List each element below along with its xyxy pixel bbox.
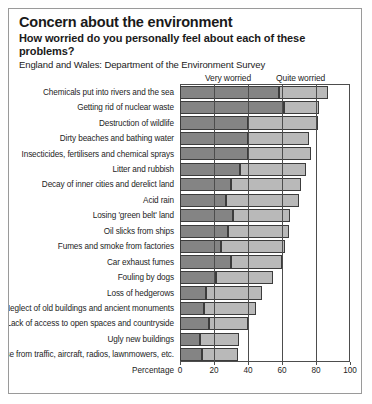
- bar-segment-very-worried: [180, 302, 204, 315]
- bar-segment-quite-worried: [202, 348, 238, 361]
- category-label: Car exhaust fumes: [107, 258, 174, 267]
- bar-row: [180, 194, 350, 207]
- bar-row: [180, 116, 350, 129]
- bar-row: [180, 147, 350, 160]
- bar-row: [180, 225, 350, 238]
- bar-segment-very-worried: [180, 348, 202, 361]
- bar-segment-very-worried: [180, 286, 206, 299]
- bar-row: [180, 348, 350, 361]
- bar-row: [180, 302, 350, 315]
- bar-segment-very-worried: [180, 194, 226, 207]
- bar-segment-very-worried: [180, 101, 284, 114]
- gridline-20: [214, 84, 215, 362]
- axis-tick-100: [350, 362, 351, 365]
- bar-row: [180, 178, 350, 191]
- category-label: Getting rid of nuclear waste: [77, 103, 174, 112]
- axis-tick-label: 60: [277, 366, 286, 375]
- x-axis: 020406080100: [180, 362, 350, 378]
- bar-segment-quite-worried: [231, 178, 301, 191]
- axis-tick-label: 80: [311, 366, 320, 375]
- category-label: Dirty beaches and bathing water: [60, 134, 174, 143]
- chart-header: Concern about the environment How worrie…: [19, 14, 355, 71]
- bar-segment-very-worried: [180, 225, 228, 238]
- category-label: Litter and rubbish: [113, 165, 174, 174]
- legend-label-quite-worried: Quite worried: [276, 73, 325, 83]
- category-label: Neglect of old buildings and ancient mon…: [8, 304, 174, 313]
- category-label: Noise from traffic, aircraft, radios, la…: [8, 350, 174, 359]
- bar-row: [180, 317, 350, 330]
- bar-row: [180, 101, 350, 114]
- axis-tick-label: 20: [209, 366, 218, 375]
- bar-segment-very-worried: [180, 163, 240, 176]
- bar-segment-very-worried: [180, 209, 233, 222]
- axis-tick-40: [248, 362, 249, 365]
- bar-segment-very-worried: [180, 178, 231, 191]
- bar-segment-quite-worried: [200, 333, 239, 346]
- chart-subtitle: How worried do you personally feel about…: [19, 32, 355, 58]
- bar-segment-quite-worried: [228, 225, 289, 238]
- bar-row: [180, 163, 350, 176]
- axis-tick-0: [180, 362, 181, 365]
- bar-row: [180, 255, 350, 268]
- category-label: Oil slicks from ships: [104, 227, 174, 236]
- axis-tick-60: [282, 362, 283, 365]
- bar-segment-quite-worried: [231, 255, 282, 268]
- category-label: Fouling by dogs: [118, 273, 174, 282]
- category-label: Decay of inner cities and derelict land: [42, 180, 174, 189]
- axis-tick-label: 0: [178, 366, 183, 375]
- x-axis-label: Percentage: [116, 366, 174, 375]
- chart-panel: Concern about the environment How worrie…: [8, 8, 362, 394]
- bar-row: [180, 132, 350, 145]
- axis-tick-label: 100: [343, 366, 357, 375]
- bar-segment-quite-worried: [221, 240, 286, 253]
- axis-tick-20: [214, 362, 215, 365]
- bar-segment-quite-worried: [284, 101, 320, 114]
- axis-tick-80: [316, 362, 317, 365]
- gridline-80: [316, 84, 317, 362]
- page-title: Concern about the environment: [19, 14, 355, 30]
- category-label: Destruction of wildlife: [99, 119, 174, 128]
- bar-segment-quite-worried: [248, 147, 311, 160]
- bar-segment-very-worried: [180, 317, 209, 330]
- bar-rows: [180, 84, 350, 362]
- bar-segment-quite-worried: [216, 271, 274, 284]
- category-label: Loss of hedgerows: [107, 289, 174, 298]
- category-label: Ugly new buildings: [108, 335, 174, 344]
- bar-row: [180, 271, 350, 284]
- bar-segment-quite-worried: [226, 194, 299, 207]
- category-label: Losing 'green belt' land: [93, 211, 174, 220]
- bar-row: [180, 209, 350, 222]
- legend-label-very-worried: Very worried: [205, 73, 251, 83]
- bar-segment-quite-worried: [240, 163, 306, 176]
- bar-row: [180, 240, 350, 253]
- bar-segment-very-worried: [180, 255, 231, 268]
- chart-source: England and Wales: Department of the Env…: [19, 59, 355, 71]
- gridline-40: [248, 84, 249, 362]
- bar-segment-very-worried: [180, 333, 200, 346]
- gridline-60: [282, 84, 283, 362]
- category-label: Lack of access to open spaces and countr…: [8, 319, 174, 328]
- category-label: Insecticides, fertilisers and chemical s…: [22, 150, 175, 159]
- bar-segment-quite-worried: [279, 86, 328, 99]
- bar-segment-quite-worried: [248, 132, 309, 145]
- bar-row: [180, 286, 350, 299]
- axis-tick-label: 40: [243, 366, 252, 375]
- plot-area: [180, 84, 350, 362]
- bar-segment-very-worried: [180, 271, 216, 284]
- category-label: Chemicals put into rivers and the sea: [43, 88, 174, 97]
- bar-row: [180, 86, 350, 99]
- category-label: Fumes and smoke from factories: [58, 242, 174, 251]
- bar-row: [180, 333, 350, 346]
- bar-segment-very-worried: [180, 86, 279, 99]
- category-label: Acid rain: [143, 196, 174, 205]
